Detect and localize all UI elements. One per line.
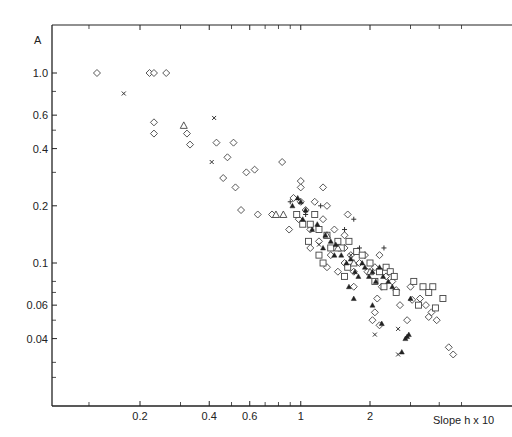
x-tick-label: 0.2 (132, 410, 147, 422)
data-point-triangle-filled (399, 350, 404, 355)
data-point-diamond-open (344, 211, 351, 218)
data-point-square-open (420, 284, 426, 290)
data-point-diamond-open (286, 226, 293, 233)
data-point-diamond-open (290, 194, 297, 201)
data-point-square-open (354, 248, 360, 254)
data-point-diamond-open (369, 317, 376, 324)
x-tick-label: 1 (298, 410, 304, 422)
data-point-diamond-open (230, 139, 237, 146)
data-point-diamond-open (311, 198, 318, 205)
x-tick-label: 0.6 (242, 410, 257, 422)
data-point-square-open (359, 252, 365, 258)
data-point-x (212, 116, 216, 120)
data-point-diamond-open (254, 211, 261, 218)
data-point-diamond-open (315, 238, 322, 245)
data-point-diamond-open (183, 130, 190, 137)
data-point-square-open (432, 305, 438, 311)
data-point-triangle-filled (315, 222, 320, 227)
data-point-x (210, 160, 214, 164)
data-point-square-open (300, 221, 306, 227)
data-point-square-open (426, 289, 432, 295)
data-point-diamond-open (243, 169, 250, 176)
data-point-triangle-filled (328, 239, 333, 244)
data-point-diamond-open (150, 70, 157, 77)
data-points (93, 70, 456, 358)
data-point-square-open (294, 211, 300, 217)
data-point-diamond-open (320, 184, 327, 191)
data-point-diamond-open (93, 70, 100, 77)
data-point-triangle-filled (351, 296, 356, 301)
y-tick-label: 0.4 (33, 143, 48, 155)
data-point-square-open (307, 221, 313, 227)
y-tick-label: 0.2 (33, 200, 48, 212)
data-point-diamond-open (232, 184, 239, 191)
data-point-diamond-open (350, 283, 357, 290)
data-point-diamond-open (297, 184, 304, 191)
data-point-diamond-open (279, 159, 286, 166)
data-point-plus (342, 227, 347, 232)
data-point-square-open (342, 273, 348, 279)
x-axis-title: Slope h x 10 (433, 414, 494, 426)
data-point-square-open (381, 284, 387, 290)
data-point-square-open (316, 252, 322, 258)
data-point-diamond-open (450, 351, 457, 358)
y-tick-label: 1.0 (33, 67, 48, 79)
data-point-triangle-open (280, 211, 287, 218)
data-point-diamond-open (396, 302, 403, 309)
data-point-square-open (411, 278, 417, 284)
data-point-diamond-open (163, 70, 170, 77)
data-point-triangle-filled (390, 284, 395, 289)
data-point-diamond-open (417, 295, 424, 302)
data-point-diamond-open (220, 175, 227, 182)
data-point-diamond-open (334, 268, 341, 275)
data-point-diamond-open (374, 295, 381, 302)
data-point-diamond-open (213, 139, 220, 146)
x-tick-label: 0.4 (202, 410, 217, 422)
data-point-triangle-filled (339, 253, 344, 257)
data-point-square-open (328, 245, 334, 251)
data-point-square-open (377, 269, 383, 275)
data-point-triangle-filled (356, 274, 361, 279)
data-point-square-open (312, 211, 318, 217)
data-point-plus (351, 217, 356, 222)
data-point-diamond-open (404, 317, 411, 324)
y-tick-label: 0.6 (33, 109, 48, 121)
data-point-diamond-open (150, 119, 157, 126)
data-point-triangle-filled (370, 303, 375, 308)
data-point-diamond-open (323, 202, 330, 209)
y-axis-title: A (34, 34, 42, 46)
data-point-diamond-open (433, 317, 440, 324)
data-point-square-open (305, 238, 311, 244)
data-point-diamond-open (376, 252, 383, 259)
y-tick-label: 0.06 (27, 299, 48, 311)
x-tick-label: 2 (367, 410, 373, 422)
data-point-diamond-open (331, 226, 338, 233)
data-point-diamond-open (307, 244, 314, 251)
data-point-diamond-open (251, 166, 258, 173)
data-point-x (122, 92, 126, 96)
data-point-square-open (320, 260, 326, 266)
data-point-diamond-open (320, 216, 327, 223)
data-point-square-open (415, 302, 421, 308)
data-point-square-open (440, 296, 446, 302)
scatter-chart: 1.00.60.40.20.10.060.04 0.20.40.612 A Sl… (0, 0, 512, 437)
data-point-square-open (316, 227, 322, 233)
y-tick-label: 0.1 (33, 257, 48, 269)
data-point-square-open (346, 238, 352, 244)
data-point-x (373, 333, 377, 337)
data-point-diamond-open (150, 130, 157, 137)
data-point-x (396, 352, 400, 356)
data-point-diamond-open (371, 309, 378, 316)
data-point-triangle-open (180, 122, 187, 129)
data-point-plus (303, 212, 308, 217)
data-point-diamond-open (445, 344, 452, 351)
data-point-diamond-open (224, 154, 231, 161)
y-tick-label: 0.04 (27, 333, 48, 345)
data-point-diamond-open (422, 302, 429, 309)
data-point-square-open (393, 289, 399, 295)
data-point-diamond-open (238, 207, 245, 214)
data-point-square-open (391, 273, 397, 279)
x-axis-ticks: 0.20.40.612 (132, 25, 373, 422)
data-point-plus (318, 203, 323, 208)
data-point-plus (381, 245, 386, 250)
